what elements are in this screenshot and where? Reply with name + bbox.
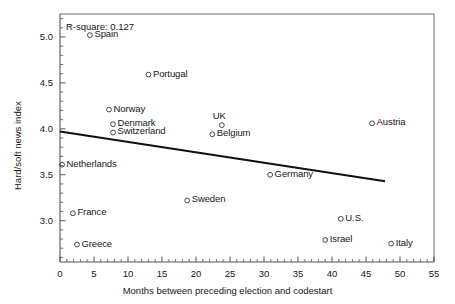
x-tick-label: 0: [51, 268, 69, 279]
x-tick-label: 25: [221, 268, 239, 279]
point-label: Norway: [113, 104, 145, 114]
x-tick-label: 35: [289, 268, 307, 279]
x-tick-label: 5: [85, 268, 103, 279]
x-tick-label: 20: [187, 268, 205, 279]
point-label: UK: [213, 111, 226, 121]
y-tick-label: 4.5: [27, 77, 53, 88]
x-tick-label: 50: [391, 268, 409, 279]
point-label: Italy: [396, 238, 413, 248]
scatter-chart: R-square: 0.127 Months between preceding…: [0, 0, 455, 304]
point-label: Switzerland: [118, 126, 166, 136]
point-label: Germany: [275, 169, 313, 179]
point-label: Portugal: [153, 69, 188, 79]
x-tick-label: 40: [323, 268, 341, 279]
plot-area-svg: [0, 0, 455, 304]
point-label: Belgium: [217, 128, 251, 138]
x-axis-title: Months between preceding election and co…: [0, 285, 455, 296]
point-label: France: [77, 207, 106, 217]
x-tick-label: 15: [153, 268, 171, 279]
trend-line: [60, 132, 385, 182]
point-label: Austria: [377, 117, 406, 127]
point-label: Israel: [330, 234, 353, 244]
point-label: U.S.: [345, 213, 363, 223]
point-label: Sweden: [192, 194, 226, 204]
y-tick-label: 3.0: [27, 215, 53, 226]
point-label: Netherlands: [67, 159, 117, 169]
x-tick-label: 30: [255, 268, 273, 279]
x-tick-label: 55: [425, 268, 443, 279]
x-tick-label: 45: [357, 268, 375, 279]
x-tick-label: 10: [119, 268, 137, 279]
y-tick-label: 3.5: [27, 169, 53, 180]
y-tick-label: 5.0: [27, 31, 53, 42]
y-tick-label: 4.0: [27, 123, 53, 134]
point-label: Greece: [82, 239, 113, 249]
point-label: Spain: [94, 29, 118, 39]
y-axis-title: Hard/soft news index: [12, 101, 23, 190]
